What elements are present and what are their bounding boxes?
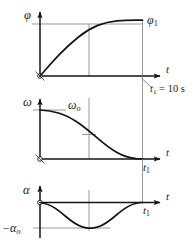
tick-label-t1-alpha: t1: [143, 205, 150, 216]
tick-label-t1-omega-sub: 1: [146, 166, 150, 175]
value-label-minus-alpha0-main: −α: [2, 221, 16, 235]
annotation-t1-sub: 1: [153, 88, 157, 96]
kinematics-figure: φ t φ1 t1 = 10 s ω t ωo t1 α t −αo t1: [0, 0, 195, 245]
curve-phi: [40, 20, 143, 76]
value-label-phi1: φ1: [147, 14, 158, 26]
annotation-t1-rest: = 10 s: [156, 83, 184, 94]
axis-label-t-alpha: t: [166, 191, 169, 202]
panel-alpha: [33, 159, 160, 238]
panel-omega: [33, 76, 160, 164]
tick-label-t1-omega: t1: [143, 162, 150, 173]
axis-label-phi: φ: [24, 9, 31, 22]
tick-label-t1-alpha-sub: 1: [146, 209, 150, 218]
axis-label-t-phi: t: [166, 64, 169, 75]
value-label-omega0-sub: o: [76, 104, 80, 113]
axis-label-t-omega: t: [166, 147, 169, 158]
panel-phi: [32, 12, 160, 88]
value-label-omega0: ωo: [68, 99, 81, 111]
value-label-phi1-main: φ: [147, 13, 154, 27]
annotation-t1-value: t1 = 10 s: [150, 84, 185, 95]
axis-label-omega: ω: [23, 96, 32, 109]
value-label-minus-alpha0-sub: o: [16, 227, 20, 236]
axis-label-alpha: α: [23, 184, 30, 197]
value-label-minus-alpha0: −αo: [2, 222, 20, 234]
kinematics-svg: [0, 0, 195, 245]
value-label-phi1-sub: 1: [154, 19, 158, 28]
curve-alpha: [40, 203, 143, 229]
